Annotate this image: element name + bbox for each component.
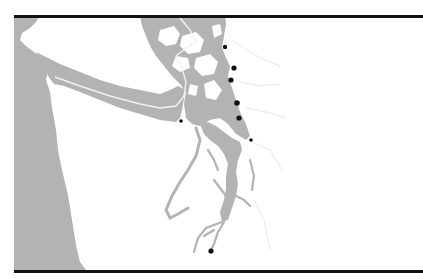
marker-3[interactable] [228, 77, 233, 82]
marker-4[interactable] [234, 100, 240, 106]
frame-top-border [14, 15, 423, 18]
map-svg [14, 15, 423, 273]
frame-bottom-border [14, 270, 423, 273]
pacific-ocean [14, 15, 86, 270]
marker-7[interactable] [179, 119, 183, 123]
hood-canal [166, 128, 200, 218]
marker-5[interactable] [236, 115, 241, 120]
marker-1[interactable] [223, 45, 227, 49]
marker-6[interactable] [249, 138, 253, 142]
map-canvas [14, 15, 423, 273]
marker-2[interactable] [231, 65, 236, 70]
puget-sound [200, 122, 242, 222]
marker-8[interactable] [208, 248, 213, 253]
